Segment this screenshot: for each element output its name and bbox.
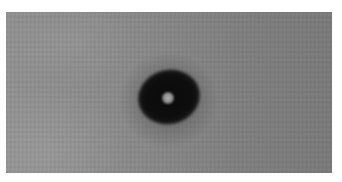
grayscale-photo (6, 12, 332, 173)
bright-core (162, 92, 174, 104)
image-canvas: Dark elliptical ring with a small bright… (0, 0, 342, 182)
